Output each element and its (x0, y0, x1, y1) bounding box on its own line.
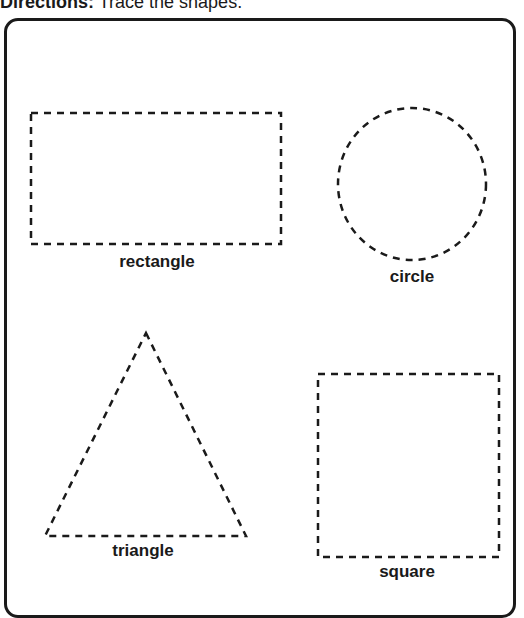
circle-label: circle (390, 268, 434, 286)
circle-shape[interactable] (338, 108, 486, 260)
triangle-shape[interactable] (45, 333, 246, 536)
rectangle-shape[interactable] (31, 113, 281, 244)
square-label: square (379, 563, 435, 581)
triangle-label: triangle (112, 542, 173, 560)
rectangle-label: rectangle (119, 253, 195, 271)
square-shape[interactable] (318, 374, 499, 557)
